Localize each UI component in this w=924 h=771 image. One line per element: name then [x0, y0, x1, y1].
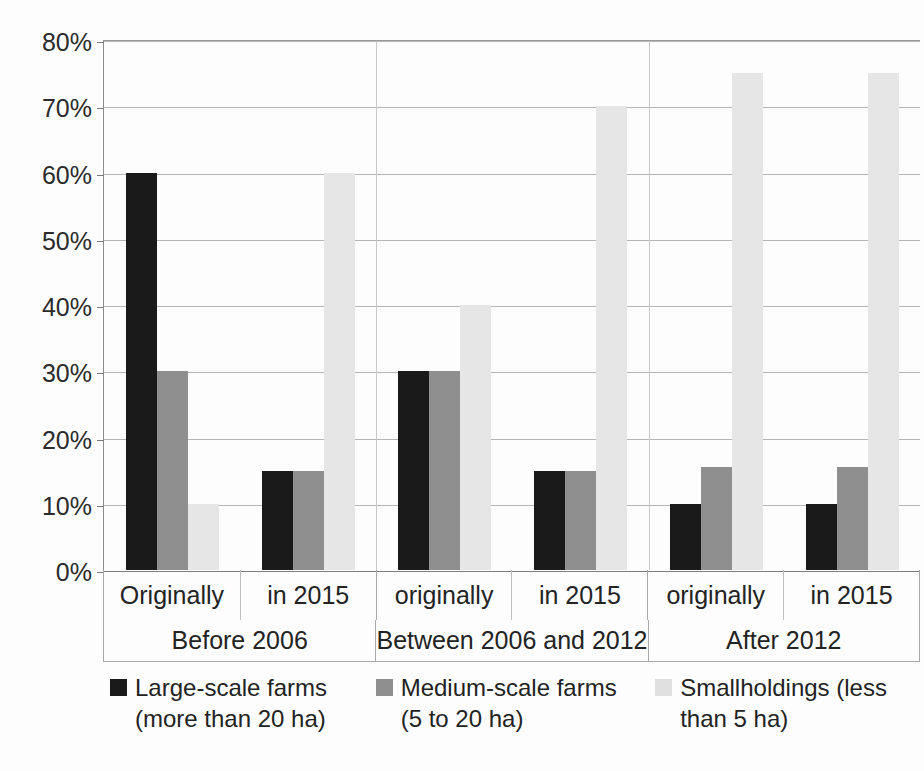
bar	[868, 73, 899, 570]
x-axis-subcategory-label: in 2015	[511, 570, 647, 620]
legend-item: Large-scale farms (more than 20 ha)	[103, 672, 376, 734]
bar	[188, 504, 219, 570]
legend-item: Medium-scale farms (5 to 20 ha)	[376, 672, 656, 734]
bar	[732, 73, 763, 570]
bar	[324, 173, 355, 571]
y-axis-tick-mark	[97, 108, 104, 109]
legend-label: Smallholdings (less than 5 ha)	[680, 672, 887, 734]
y-axis-tick-label: 10%	[42, 493, 92, 518]
bar	[670, 504, 701, 570]
x-axis-group-label: After 2012	[648, 620, 919, 661]
x-axis-subcategory-label: originally	[376, 570, 512, 620]
bar	[157, 371, 188, 570]
x-axis-group-row: Before 2006Between 2006 and 2012After 20…	[104, 620, 919, 661]
x-axis-subcategory-label: in 2015	[783, 570, 919, 620]
bar	[429, 371, 460, 570]
x-axis-subcategory-label: Originally	[104, 570, 240, 620]
bar	[596, 106, 627, 570]
y-axis-tick-label: 40%	[42, 295, 92, 320]
y-axis-tick-mark	[97, 440, 104, 441]
bar	[565, 471, 596, 570]
legend-label: Large-scale farms (more than 20 ha)	[135, 672, 327, 734]
chart-legend: Large-scale farms (more than 20 ha)Mediu…	[103, 672, 903, 734]
bar-chart: 80%70%60%50%40%30%20%10%0% Originallyin …	[0, 0, 924, 771]
y-axis-tick-label: 50%	[42, 228, 92, 253]
y-axis-tick-label: 0%	[56, 560, 92, 585]
y-axis-tick-label: 20%	[42, 427, 92, 452]
bar	[293, 471, 324, 570]
y-axis-tick-mark	[97, 241, 104, 242]
y-axis-tick-mark	[97, 307, 104, 308]
plot-area: 80%70%60%50%40%30%20%10%0%	[103, 40, 920, 570]
legend-swatch-icon	[110, 679, 127, 696]
y-axis-tick-mark	[97, 175, 104, 176]
bar	[701, 467, 732, 570]
x-axis-subcategory-label: in 2015	[240, 570, 376, 620]
bar	[534, 471, 565, 570]
x-axis-group-label: Between 2006 and 2012	[375, 620, 647, 661]
x-axis-group-label: Before 2006	[104, 620, 375, 661]
bar	[806, 504, 837, 570]
x-axis-subcategory-label: originally	[647, 570, 783, 620]
bar	[460, 305, 491, 570]
y-axis-tick-label: 70%	[42, 96, 92, 121]
legend-item: Smallholdings (less than 5 ha)	[655, 672, 903, 734]
bar	[398, 371, 429, 570]
bars-layer	[104, 41, 920, 570]
legend-swatch-icon	[376, 679, 393, 696]
legend-label: Medium-scale farms (5 to 20 ha)	[401, 672, 617, 734]
legend-swatch-icon	[655, 679, 672, 696]
y-axis-tick-label: 60%	[42, 162, 92, 187]
x-axis-label-table: Originallyin 2015originallyin 2015origin…	[103, 570, 920, 662]
y-axis-tick-mark	[97, 506, 104, 507]
x-axis-subcategory-row: Originallyin 2015originallyin 2015origin…	[104, 570, 919, 620]
y-axis-tick-mark	[97, 373, 104, 374]
y-axis-tick-label: 30%	[42, 361, 92, 386]
y-axis-tick-label: 80%	[42, 30, 92, 55]
bar	[262, 471, 293, 570]
bar	[837, 467, 868, 570]
bar	[126, 173, 157, 571]
y-axis-tick-mark	[97, 42, 104, 43]
